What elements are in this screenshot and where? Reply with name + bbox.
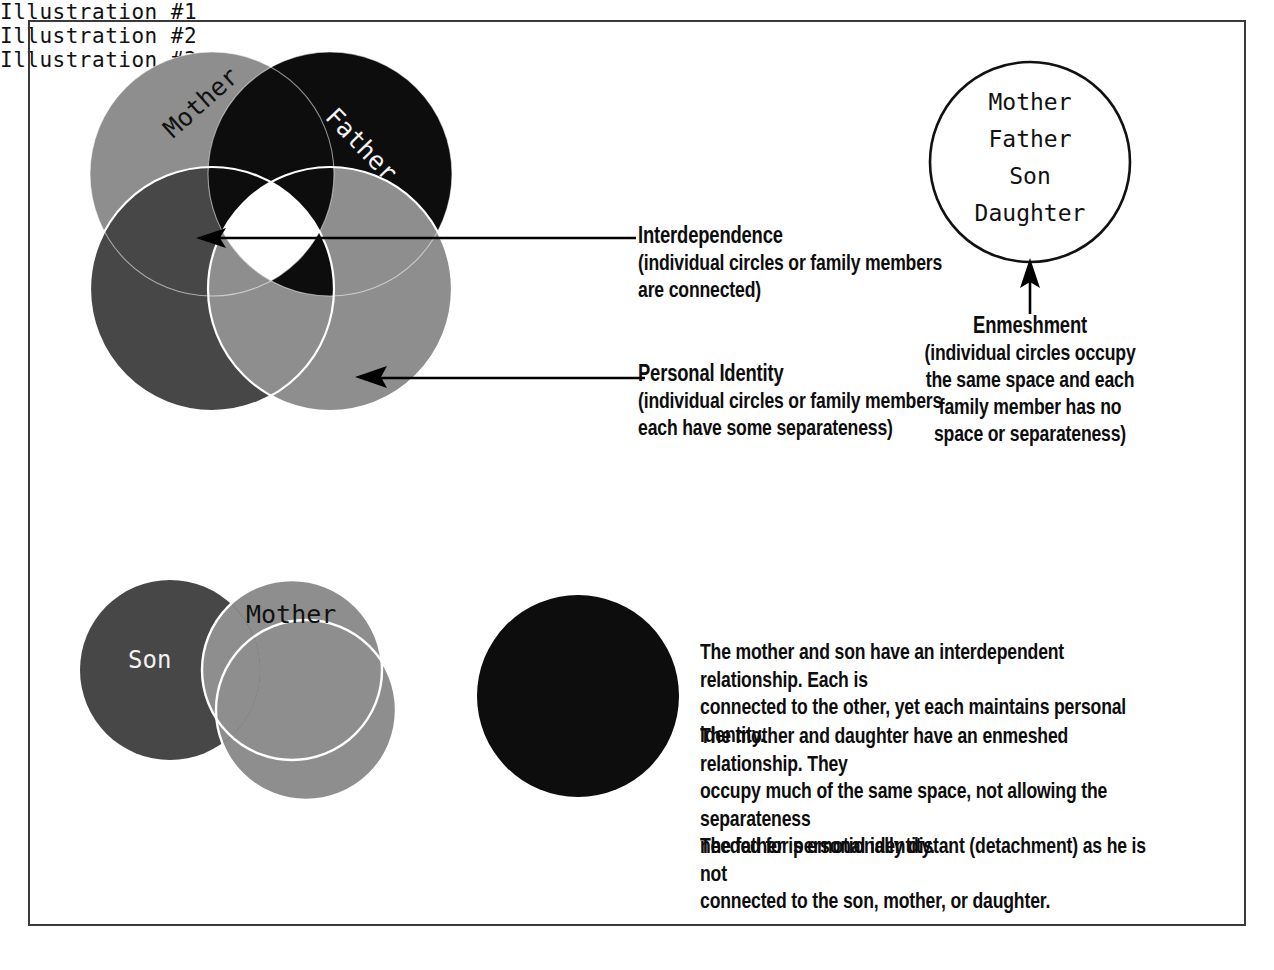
personal-identity-heading: Personal Identity xyxy=(638,360,942,387)
detached-father-circle-wrap xyxy=(474,592,684,802)
interdependence-pointer xyxy=(196,218,636,258)
enmeshment-body-line-3: family member has no xyxy=(902,393,1158,420)
paragraph-father-line-2: connected to the son, mother, or daughte… xyxy=(700,887,1159,915)
paragraph-father: The father is emotionally distant (detac… xyxy=(700,832,1274,915)
member-father: Father xyxy=(988,126,1071,152)
label-mother-i3: Mother xyxy=(246,600,336,629)
interdependence-body-line-2: are connected) xyxy=(638,276,942,303)
illustration-3-venn: Son Mother xyxy=(78,578,418,838)
member-mother: Mother xyxy=(988,89,1071,115)
enmeshment-body-line-1: (individual circles occupy xyxy=(902,339,1158,366)
member-daughter: Daughter xyxy=(975,200,1086,226)
personal-identity-body-line-1: (individual circles or family members xyxy=(638,387,942,414)
member-son: Son xyxy=(1009,163,1051,189)
paragraph-mother-daughter-line-2: occupy much of the same space, not allow… xyxy=(700,777,1159,832)
enmeshment-pointer xyxy=(1012,258,1048,314)
enmeshment-body-line-2: the same space and each xyxy=(902,366,1158,393)
enmeshment-body-line-4: space or separateness) xyxy=(902,420,1158,447)
personal-identity-body-line-2: each have some separateness) xyxy=(638,414,942,441)
circle-father-detached xyxy=(477,595,679,797)
enmeshment-heading: Enmeshment xyxy=(910,312,1150,339)
paragraph-mother-daughter-line-1: The mother and daughter have an enmeshed… xyxy=(700,722,1159,777)
illustration-2-circle: Mother Father Son Daughter xyxy=(920,52,1140,274)
paragraph-mother-son-line-1: The mother and son have an interdependen… xyxy=(700,638,1159,693)
interdependence-heading: Interdependence xyxy=(638,222,942,249)
interdependence-body-line-1: (individual circles or family members xyxy=(638,249,942,276)
illustration-2-svg: Mother Father Son Daughter xyxy=(920,52,1140,274)
paragraph-father-line-1: The father is emotionally distant (detac… xyxy=(700,832,1159,887)
diagram-page: Mother Father Illustration #1 Interdepen… xyxy=(0,0,1274,970)
illustration-3-svg: Son Mother xyxy=(78,578,418,838)
personal-identity-pointer xyxy=(355,358,645,398)
label-son-i3: Son xyxy=(128,646,171,674)
